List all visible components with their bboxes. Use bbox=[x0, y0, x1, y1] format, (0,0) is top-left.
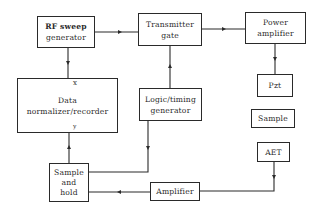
sample-label: Sample bbox=[258, 113, 288, 124]
data-normalizer-label-1: Data bbox=[58, 95, 77, 106]
port-x-label: x bbox=[73, 79, 77, 87]
sample-block: Sample bbox=[251, 109, 295, 128]
rf-sweep-label-1: RF sweep bbox=[45, 21, 87, 32]
pzt-label: Pzt bbox=[269, 80, 282, 91]
rf-sweep-generator-block: RF sweep generator bbox=[37, 16, 95, 48]
data-normalizer-label-2: normalizer/recorder bbox=[27, 106, 109, 117]
logic-timing-generator-block: Logic/timing generator bbox=[139, 88, 202, 121]
power-amplifier-label-2: amplifier bbox=[257, 28, 294, 39]
amplifier-block: Amplifier bbox=[150, 182, 200, 201]
sample-hold-label-3: hold bbox=[60, 188, 78, 198]
sample-hold-label-2: and bbox=[62, 178, 77, 188]
power-amplifier-block: Power amplifier bbox=[245, 12, 306, 44]
logic-timing-label-1: Logic/timing bbox=[145, 94, 196, 105]
rf-sweep-label-2: generator bbox=[46, 32, 86, 43]
transmitter-gate-label-2: gate bbox=[161, 30, 179, 41]
sample-hold-label-1: Sample bbox=[54, 168, 84, 178]
data-normalizer-recorder-block: Data normalizer/recorder bbox=[17, 78, 118, 133]
transmitter-gate-label-1: Transmitter bbox=[146, 19, 194, 30]
port-y-label: y bbox=[73, 122, 76, 129]
transmitter-gate-block: Transmitter gate bbox=[138, 13, 202, 46]
power-amplifier-label-1: Power bbox=[263, 17, 288, 28]
amplifier-label: Amplifier bbox=[156, 186, 194, 197]
logic-timing-label-2: generator bbox=[151, 105, 191, 116]
sample-and-hold-block: Sample and hold bbox=[49, 163, 89, 202]
aet-label: AET bbox=[265, 147, 282, 158]
aet-block: AET bbox=[257, 142, 290, 162]
pzt-block: Pzt bbox=[257, 74, 293, 97]
